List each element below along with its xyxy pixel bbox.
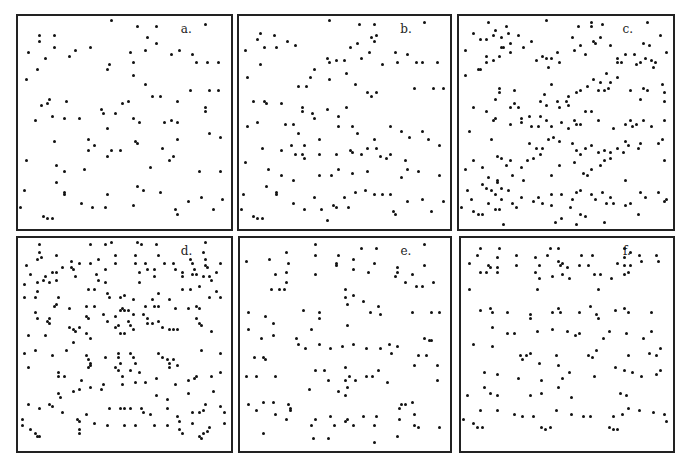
dot bbox=[352, 343, 355, 346]
panel-e: e. bbox=[238, 236, 452, 453]
dot bbox=[362, 415, 365, 418]
dot bbox=[129, 352, 132, 355]
dot bbox=[507, 32, 510, 35]
dot bbox=[318, 343, 321, 346]
dot bbox=[386, 381, 389, 384]
dot bbox=[297, 343, 300, 346]
dot bbox=[506, 311, 509, 314]
dot bbox=[375, 247, 378, 250]
dot bbox=[417, 426, 420, 429]
dot bbox=[85, 413, 88, 416]
dot bbox=[134, 254, 137, 257]
dot bbox=[491, 311, 494, 314]
dot bbox=[415, 61, 418, 64]
dot bbox=[344, 288, 347, 291]
dot bbox=[104, 281, 107, 284]
dot bbox=[505, 25, 508, 28]
dot bbox=[370, 36, 373, 39]
dot bbox=[91, 206, 94, 209]
dot bbox=[132, 117, 135, 120]
dot bbox=[108, 63, 111, 66]
dot bbox=[521, 415, 524, 418]
dot bbox=[344, 366, 347, 369]
dot bbox=[283, 288, 286, 291]
dot bbox=[40, 256, 43, 259]
dot bbox=[575, 191, 578, 194]
dot bbox=[612, 127, 615, 130]
dot bbox=[38, 435, 41, 438]
dot bbox=[51, 405, 54, 408]
dot bbox=[176, 213, 179, 216]
dot bbox=[496, 394, 499, 397]
dot bbox=[274, 375, 277, 378]
dot bbox=[526, 159, 529, 162]
dot bbox=[430, 339, 433, 342]
dot bbox=[223, 411, 226, 414]
dot bbox=[149, 413, 152, 416]
dot bbox=[579, 44, 582, 47]
dot bbox=[396, 271, 399, 274]
dot bbox=[262, 401, 265, 404]
dot bbox=[663, 91, 666, 94]
dot bbox=[104, 268, 107, 271]
dot bbox=[333, 424, 336, 427]
dot bbox=[584, 147, 587, 150]
dot bbox=[181, 288, 184, 291]
dot bbox=[573, 49, 576, 52]
dot bbox=[624, 53, 627, 56]
dot bbox=[106, 68, 109, 71]
dot bbox=[496, 271, 499, 274]
dot bbox=[268, 258, 271, 261]
dot bbox=[354, 83, 357, 86]
dot bbox=[567, 127, 570, 130]
panel-a: a. bbox=[16, 14, 233, 231]
dot bbox=[274, 273, 277, 276]
dot bbox=[481, 213, 484, 216]
dot bbox=[557, 386, 560, 389]
dot bbox=[142, 411, 145, 414]
dot bbox=[345, 72, 348, 75]
dot bbox=[129, 369, 132, 372]
dot bbox=[438, 144, 441, 147]
dot bbox=[80, 202, 83, 205]
dot bbox=[119, 149, 122, 152]
dot bbox=[400, 176, 403, 179]
dot bbox=[648, 352, 651, 355]
dot bbox=[297, 85, 300, 88]
dot bbox=[552, 136, 555, 139]
dot bbox=[176, 415, 179, 418]
dot bbox=[494, 29, 497, 32]
dot bbox=[55, 279, 58, 282]
dot bbox=[163, 121, 166, 124]
dot bbox=[46, 217, 49, 220]
dot bbox=[601, 23, 604, 26]
dot bbox=[489, 392, 492, 395]
dot bbox=[204, 110, 207, 113]
dot bbox=[565, 100, 568, 103]
dot bbox=[528, 142, 531, 145]
dot bbox=[314, 243, 317, 246]
dot bbox=[522, 46, 525, 49]
dot bbox=[375, 415, 378, 418]
dot bbox=[172, 328, 175, 331]
dot bbox=[314, 273, 317, 276]
dot bbox=[610, 277, 613, 280]
dot bbox=[265, 102, 268, 105]
dot bbox=[85, 332, 88, 335]
dot bbox=[485, 110, 488, 113]
dot bbox=[93, 288, 96, 291]
dot bbox=[468, 130, 471, 133]
dot bbox=[616, 76, 619, 79]
dot bbox=[172, 155, 175, 158]
dot bbox=[561, 273, 564, 276]
dot bbox=[421, 61, 424, 64]
dot bbox=[337, 115, 340, 118]
dot bbox=[280, 174, 283, 177]
dot bbox=[146, 317, 149, 320]
dot bbox=[381, 193, 384, 196]
dot bbox=[303, 157, 306, 160]
dot bbox=[505, 164, 508, 167]
dot bbox=[635, 63, 638, 66]
dot bbox=[555, 409, 558, 412]
dot bbox=[360, 153, 363, 156]
